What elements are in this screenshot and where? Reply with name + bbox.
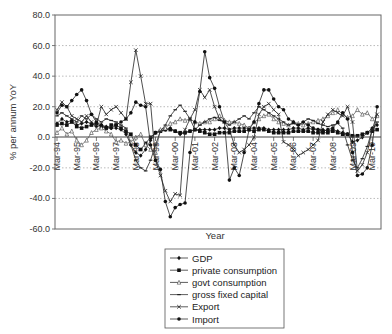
x-tick-label: Mar-07 <box>308 142 318 171</box>
x-axis-ticks: Mar-94Mar-95Mar-96Mar-97Mar-98Mar-99Mar-… <box>52 137 377 171</box>
x-axis-title: Year <box>205 230 224 241</box>
x-tick-label: Mar-08 <box>328 142 338 171</box>
legend: GDPprivate consumptiongovt consumptiongr… <box>165 249 284 328</box>
y-axis-ticks: 80.060.040.020.00.0-20.0-40.0-60.0 <box>29 10 55 234</box>
y-tick-label: -20.0 <box>29 163 50 173</box>
plot-frame <box>55 15 381 229</box>
x-tick-label: Mar-97 <box>111 142 121 171</box>
legend-label: Export <box>192 301 220 312</box>
y-tick-label: -60.0 <box>29 224 50 234</box>
line-chart: 80.060.040.020.00.0-20.0-40.0-60.0 Mar-9… <box>0 0 392 334</box>
gridlines <box>55 46 381 199</box>
x-tick-label: Mar-05 <box>269 142 279 171</box>
data-series <box>55 48 379 218</box>
y-tick-label: 80.0 <box>32 10 50 20</box>
legend-label: govt consumption <box>192 277 266 288</box>
y-axis-title: % per annum YoY <box>7 83 18 160</box>
y-tick-label: 0.0 <box>37 132 50 142</box>
legend-label: gross fixed capital <box>192 289 268 300</box>
y-tick-label: -40.0 <box>29 193 50 203</box>
series-import <box>55 50 379 219</box>
y-tick-label: 60.0 <box>32 41 50 51</box>
legend-label: Import <box>192 314 219 325</box>
x-tick-label: Mar-94 <box>52 142 62 171</box>
legend-label: private consumption <box>192 265 277 276</box>
legend-label: GDP <box>192 253 213 264</box>
y-tick-label: 40.0 <box>32 71 50 81</box>
x-tick-label: Mar-96 <box>91 142 101 171</box>
y-tick-label: 20.0 <box>32 102 50 112</box>
x-tick-label: Mar-02 <box>210 142 220 171</box>
x-tick-label: Mar-00 <box>170 142 180 171</box>
